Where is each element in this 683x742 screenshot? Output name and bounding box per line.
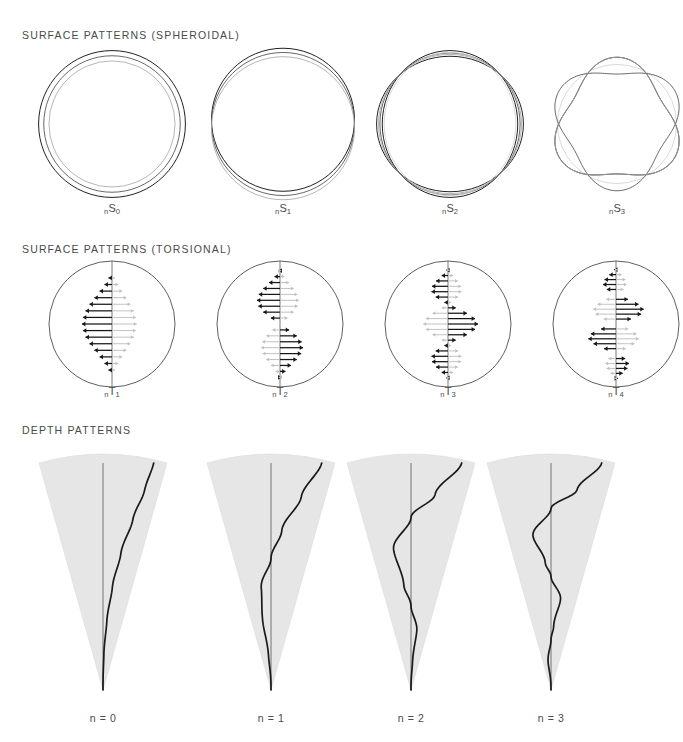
mode-prefix-nS2: n (442, 207, 446, 216)
figure-page: p, p, q q p p q q p p q q p p q p q p q … (0, 0, 683, 742)
mode-label-nS2: nS2 (370, 202, 530, 214)
mode-label-nT4: nT4 (541, 385, 683, 397)
mode-label-nT2: nT2 (205, 385, 355, 397)
diagram-nT3 (373, 258, 523, 390)
mode-label-nS0: nS0 (32, 202, 192, 214)
mode-prefix-nS0: n (104, 207, 108, 216)
panel-spheroidal-nS0: nS0 (32, 44, 192, 219)
section-title-spheroidal: SURFACE PATTERNS (SPHEROIDAL) (22, 29, 240, 41)
section-title-depth: DEPTH PATTERNS (22, 424, 131, 436)
mode-symbol-nT4: T (613, 385, 620, 397)
mode-symbol-nS0: S (108, 202, 115, 214)
mode-prefix-nT4: n (608, 390, 612, 399)
mode-symbol-nS1: S (279, 202, 286, 214)
diagram-nT1 (37, 258, 187, 390)
depth-label-n0: n = 0 (18, 712, 188, 724)
diagram-depth-n3 (466, 440, 636, 705)
mode-label-nT3: nT3 (373, 385, 523, 397)
panel-torsional-nT3: nT3 (373, 258, 523, 408)
depth-label-n3: n = 3 (466, 712, 636, 724)
mode-label-nT1: nT1 (37, 385, 187, 397)
mode-label-nS1: nS1 (203, 202, 363, 214)
mode-prefix-nT2: n (272, 390, 276, 399)
diagram-nT4 (541, 258, 683, 390)
mode-subscript-nS1: 1 (287, 207, 291, 216)
panel-torsional-nT2: nT2 (205, 258, 355, 408)
diagram-nS1 (203, 44, 363, 204)
diagram-nS0 (32, 44, 192, 204)
mode-subscript-nT4: 4 (620, 390, 624, 399)
section-title-torsional: SURFACE PATTERNS (TORSIONAL) (22, 243, 232, 255)
diagram-nS3 (537, 44, 683, 204)
mode-label-nS3: nS3 (537, 202, 683, 214)
mode-prefix-nT1: n (104, 390, 108, 399)
mode-subscript-nS2: 2 (454, 207, 458, 216)
mode-symbol-nT1: T (109, 385, 116, 397)
mode-symbol-nS3: S (613, 202, 620, 214)
mode-symbol-nT2: T (277, 385, 284, 397)
panel-depth-n3: n = 3 (466, 440, 636, 730)
diagram-nS2 (370, 44, 530, 204)
mode-subscript-nS0: 0 (116, 207, 120, 216)
panel-torsional-nT1: nT1 (37, 258, 187, 408)
panel-spheroidal-nS1: nS1 (203, 44, 363, 219)
mode-subscript-nT3: 3 (452, 390, 456, 399)
mode-prefix-nS1: n (275, 207, 279, 216)
mode-subscript-nS3: 3 (621, 207, 625, 216)
mode-prefix-nS3: n (609, 207, 613, 216)
panel-torsional-nT4: nT4 (541, 258, 683, 408)
page-top-text-strip: p, p, q q p p q q p p q q p p q p q p q … (0, 0, 683, 10)
panel-spheroidal-nS2: nS2 (370, 44, 530, 219)
mode-subscript-nT2: 2 (284, 390, 288, 399)
panel-spheroidal-nS3: nS3 (537, 44, 683, 219)
mode-prefix-nT3: n (440, 390, 444, 399)
panel-depth-n0: n = 0 (18, 440, 188, 730)
mode-subscript-nT1: 1 (116, 390, 120, 399)
mode-symbol-nT3: T (445, 385, 452, 397)
diagram-depth-n0 (18, 440, 188, 705)
diagram-nT2 (205, 258, 355, 390)
mode-symbol-nS2: S (446, 202, 453, 214)
